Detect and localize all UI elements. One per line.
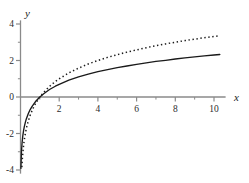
log-curves-plot: 246810420-2-4 x y xyxy=(0,0,249,183)
y-tick-label: -2 xyxy=(6,129,14,139)
y-tick-label: 2 xyxy=(9,56,14,66)
y-tick-label: 4 xyxy=(9,19,14,29)
x-tick-label: 10 xyxy=(209,104,219,114)
figure-canvas: 246810420-2-4 x y xyxy=(0,0,249,183)
y-axis-label: y xyxy=(24,7,30,19)
x-axis-label: x xyxy=(233,91,239,103)
y-tick-label: 0 xyxy=(9,92,14,102)
y-tick-label: -4 xyxy=(6,165,14,175)
x-tick-label: 2 xyxy=(57,104,62,114)
plot-background xyxy=(0,0,249,183)
x-tick-label: 8 xyxy=(173,104,178,114)
x-tick-label: 6 xyxy=(134,104,139,114)
x-tick-label: 4 xyxy=(96,104,101,114)
